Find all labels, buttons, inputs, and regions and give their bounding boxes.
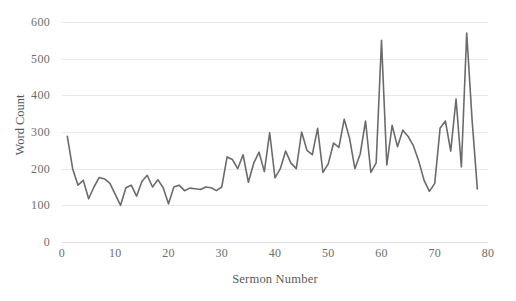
y-tick-label: 100	[0, 198, 56, 213]
x-tick-label: 30	[215, 246, 228, 261]
y-tick-label: 500	[0, 51, 56, 66]
x-axis-tick-labels: 01020304050607080	[0, 246, 516, 264]
x-tick-label: 0	[59, 246, 65, 261]
x-tick-label: 80	[482, 246, 495, 261]
x-tick-label: 40	[269, 246, 282, 261]
word-count-line-chart: Word Count 0100200300400500600 010203040…	[0, 0, 516, 301]
gridline-0	[62, 242, 488, 243]
y-tick-label: 300	[0, 125, 56, 140]
y-tick-label: 600	[0, 15, 56, 30]
y-tick-label: 200	[0, 161, 56, 176]
x-tick-label: 60	[375, 246, 388, 261]
x-tick-label: 10	[109, 246, 122, 261]
x-tick-label: 70	[428, 246, 441, 261]
plot-area	[62, 22, 488, 242]
x-tick-label: 20	[162, 246, 175, 261]
x-axis-title: Sermon Number	[62, 272, 488, 287]
series-layer	[62, 22, 488, 242]
x-tick-label: 50	[322, 246, 335, 261]
word-count-series-line	[67, 33, 477, 205]
y-tick-label: 400	[0, 88, 56, 103]
